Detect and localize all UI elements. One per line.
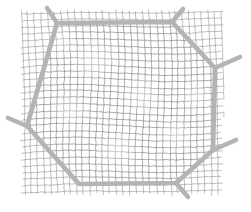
mesh-boundary-figure — [0, 0, 251, 212]
figure-container — [0, 0, 251, 212]
